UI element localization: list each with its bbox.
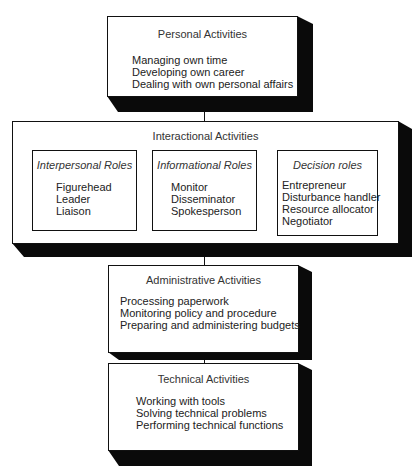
list-item: Entrepreneur: [282, 179, 380, 191]
interpersonal-roles-box: Interpersonal Roles Figurehead Leader Li…: [32, 150, 137, 231]
interactional-activities-title: Interactional Activities: [13, 130, 398, 142]
list-item: Leader: [56, 193, 112, 205]
informational-roles-box: Informational Roles Monitor Disseminator…: [152, 150, 257, 231]
list-item: Spokesperson: [171, 205, 241, 217]
list-item: Disseminator: [171, 193, 241, 205]
list-item: Dealing with own personal affairs: [132, 78, 293, 90]
list-item: Preparing and administering budgets: [120, 319, 300, 331]
list-item: Working with tools: [136, 395, 283, 407]
informational-roles-title: Informational Roles: [153, 159, 256, 171]
list-item: Monitor: [171, 181, 241, 193]
administrative-activities-box: Administrative Activities Processing pap…: [108, 265, 299, 353]
administrative-activities-list: Processing paperwork Monitoring policy a…: [120, 295, 300, 331]
list-item: Monitoring policy and procedure: [120, 307, 300, 319]
list-item: Managing own time: [132, 54, 293, 66]
list-item: Figurehead: [56, 181, 112, 193]
list-item: Processing paperwork: [120, 295, 300, 307]
informational-roles-list: Monitor Disseminator Spokesperson: [171, 181, 241, 217]
list-item: Liaison: [56, 205, 112, 217]
technical-activities-box: Technical Activities Working with tools …: [108, 363, 299, 451]
list-item: Disturbance handler: [282, 191, 380, 203]
technical-activities-list: Working with tools Solving technical pro…: [136, 395, 283, 431]
interpersonal-roles-title: Interpersonal Roles: [33, 159, 136, 171]
list-item: Developing own career: [132, 66, 293, 78]
personal-activities-title: Personal Activities: [108, 28, 297, 40]
list-item: Solving technical problems: [136, 407, 283, 419]
decision-roles-box: Decision roles Entrepreneur Disturbance …: [277, 150, 378, 236]
list-item: Performing technical functions: [136, 419, 283, 431]
decision-roles-title: Decision roles: [278, 159, 377, 171]
technical-activities-title: Technical Activities: [109, 373, 298, 385]
personal-activities-list: Managing own time Developing own career …: [132, 54, 293, 90]
administrative-activities-title: Administrative Activities: [109, 274, 298, 286]
interpersonal-roles-list: Figurehead Leader Liaison: [56, 181, 112, 217]
list-item: Negotiator: [282, 215, 380, 227]
personal-activities-box: Personal Activities Managing own time De…: [107, 16, 298, 97]
list-item: Resource allocator: [282, 203, 380, 215]
decision-roles-list: Entrepreneur Disturbance handler Resourc…: [282, 179, 380, 227]
